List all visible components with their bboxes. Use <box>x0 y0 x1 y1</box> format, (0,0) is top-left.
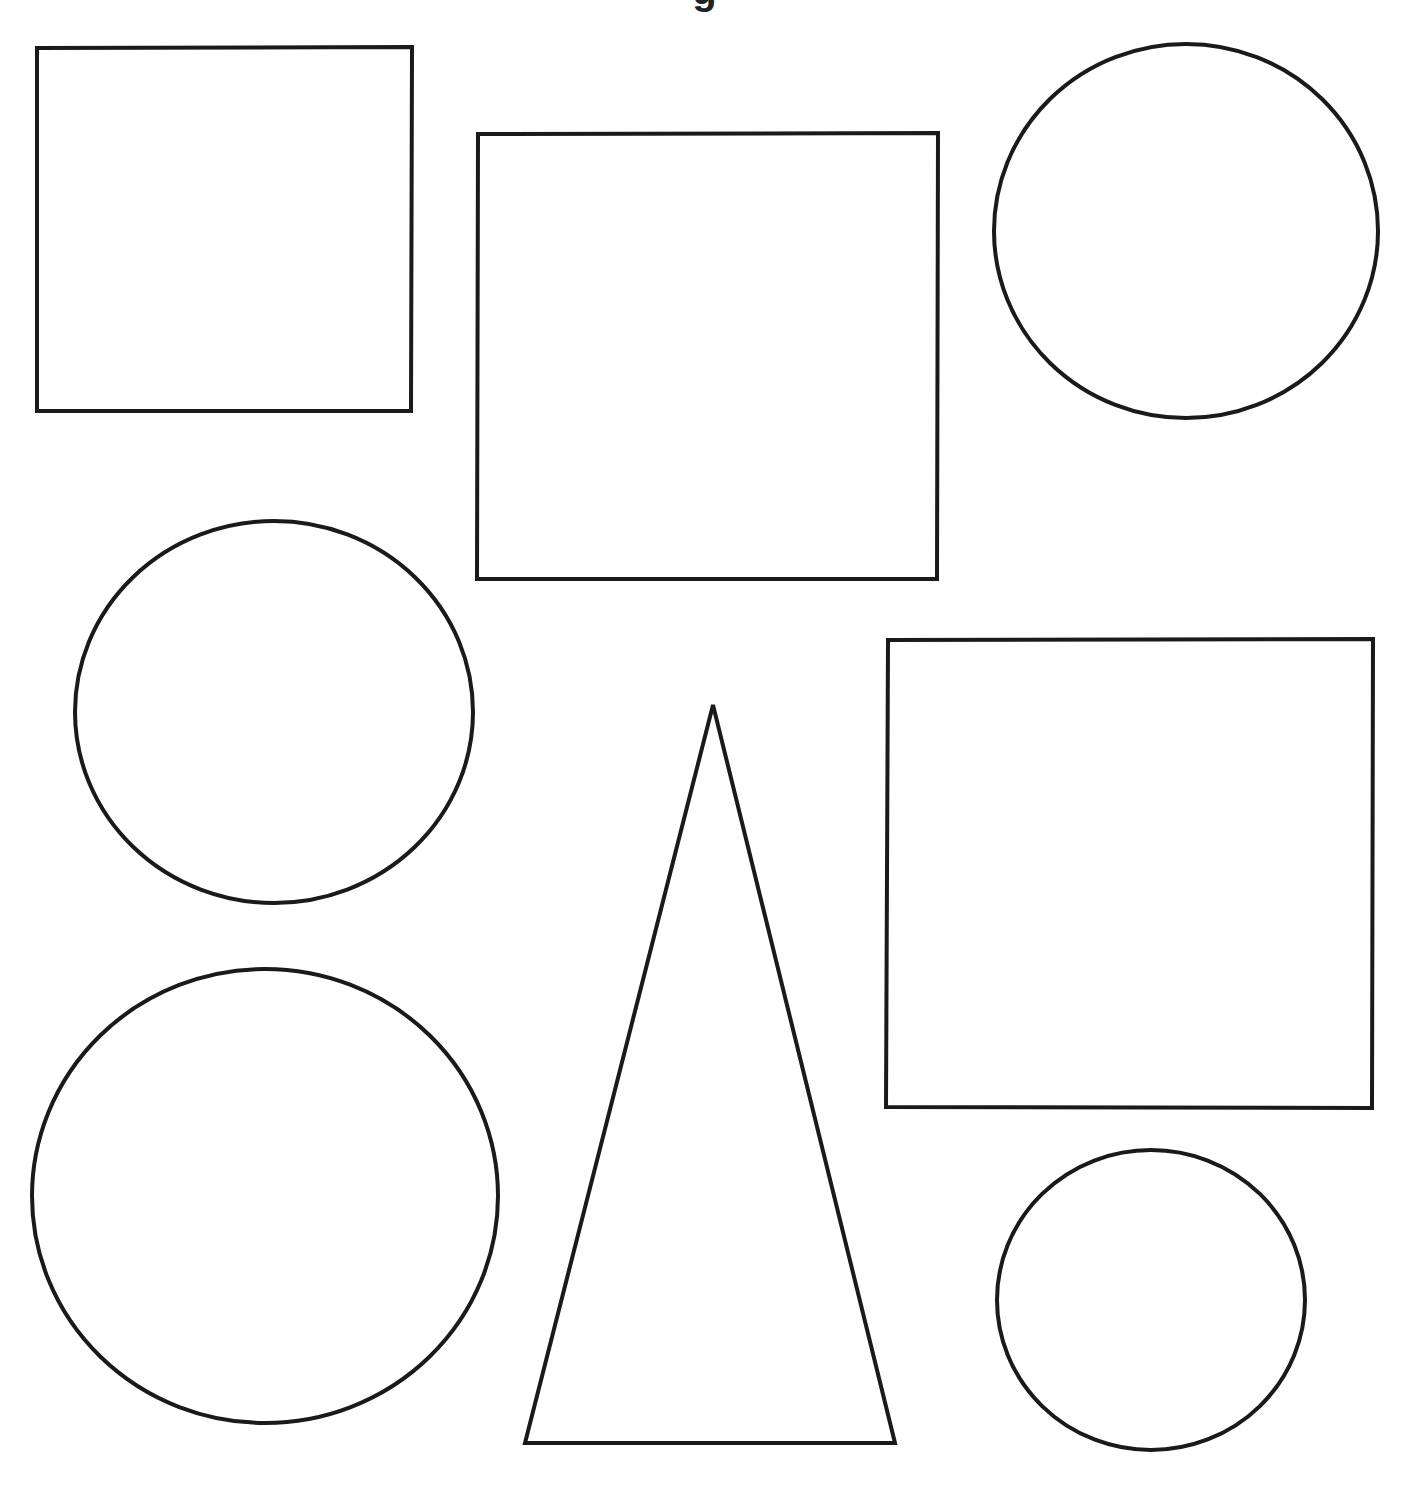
circle-top-right <box>994 44 1378 418</box>
circle-bottom-right <box>997 1150 1305 1450</box>
circle-middle-left <box>75 521 473 903</box>
square-top-left <box>37 47 412 411</box>
shapes-canvas <box>0 0 1409 1504</box>
square-right <box>886 639 1373 1108</box>
square-top-middle <box>477 133 938 579</box>
triangle-center <box>525 705 895 1443</box>
circle-bottom-left <box>32 969 498 1423</box>
